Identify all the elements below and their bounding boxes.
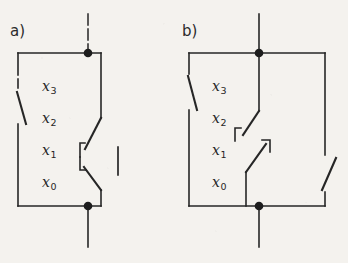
panel-a-switch-lower-blade: [84, 167, 101, 190]
circuit-drawing: [0, 0, 348, 263]
panel-a-switch-upper-blade: [85, 118, 101, 149]
panel-a-variable-x1: x1: [42, 142, 56, 160]
panel-a-top-terminal-node: [84, 49, 93, 58]
panel-b-variable-x0: x0: [212, 174, 226, 192]
panel-b-switch-lower-blade: [246, 144, 266, 172]
panel-b-switch-left-blade: [188, 76, 197, 110]
panel-b-variable-x2: x2: [212, 110, 226, 128]
panel-b-circuit: [188, 14, 336, 247]
panel-a-upper-contact-bracket: [80, 143, 85, 157]
panel-b-lower-contact-bracket: [262, 140, 270, 152]
panel-b-bottom-terminal-node: [255, 202, 264, 211]
panel-a-variable-x2: x2: [42, 110, 56, 128]
panel-a-variable-x0: x0: [42, 174, 56, 192]
panel-a-variable-x3: x3: [42, 78, 56, 96]
panel-b-top-terminal-node: [255, 49, 264, 58]
panel-a-label: a): [10, 22, 25, 40]
panel-b-switch-upper-blade: [243, 111, 259, 135]
panel-b-variable-x1: x1: [212, 142, 226, 160]
panel-b-label: b): [182, 22, 197, 40]
figure-root: a) x3 x2 x1 x0 b) x3 x2 x1 x0: [0, 0, 348, 263]
panel-a-bottom-terminal-node: [84, 202, 93, 211]
panel-a-switch-x-left-blade: [17, 92, 26, 124]
panel-b-variable-x3: x3: [212, 78, 226, 96]
panel-b-upper-contact-bracket: [235, 128, 241, 141]
panel-b-switch-right-blade: [322, 158, 336, 190]
panel-a-circuit: [17, 14, 118, 247]
